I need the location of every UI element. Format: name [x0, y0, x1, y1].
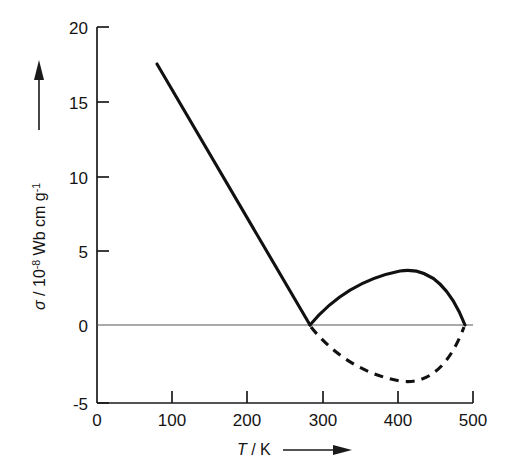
x-tick-label-500: 500 [459, 411, 487, 430]
y-tick-label-10: 10 [69, 169, 88, 188]
y-axis-slash: / 10 [31, 269, 48, 300]
x-tick-label-100: 100 [158, 411, 186, 430]
x-tick-label-0: 0 [92, 411, 101, 430]
y-tick-label-5: 5 [79, 243, 88, 262]
y-tick-label-20: 20 [69, 19, 88, 38]
sigma-vs-temperature-chart: 20 15 10 5 0 -5 0 100 200 300 400 500 σ … [0, 0, 529, 468]
y-axis-exponent-main: -8 [30, 260, 42, 269]
y-axis-exponent-unit: -1 [30, 183, 42, 192]
x-axis-title: T / K [237, 441, 271, 458]
y-axis-title: σ / 10-8 Wb cm g-1 [30, 183, 48, 310]
x-tick-label-200: 200 [233, 411, 261, 430]
y-tick-label-minus5: -5 [73, 395, 88, 414]
x-tick-label-300: 300 [309, 411, 337, 430]
y-axis-unit: Wb cm g [31, 192, 48, 260]
y-tick-label-0: 0 [79, 317, 88, 336]
y-tick-label-15: 15 [69, 94, 88, 113]
x-tick-label-400: 400 [384, 411, 412, 430]
x-axis-rest: / K [247, 441, 271, 458]
